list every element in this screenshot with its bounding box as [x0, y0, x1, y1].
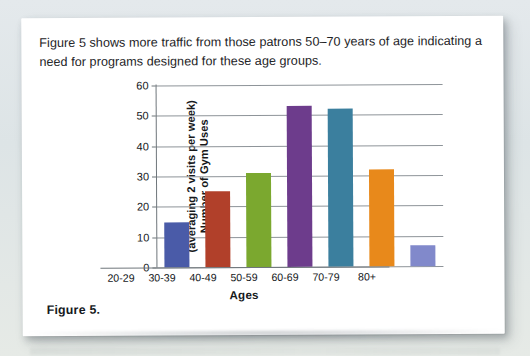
figure-card-inner: Figure 5 shows more traffic from those p… — [21, 16, 505, 336]
bar-30-39 — [205, 191, 231, 267]
bar-slot — [361, 84, 403, 266]
x-axis-tick-label: 60-69 — [264, 271, 305, 283]
y-axis-tick-label: 10 — [137, 231, 149, 243]
figure-caption: Figure 5. — [47, 303, 101, 317]
bar-slot — [402, 84, 444, 266]
bar-chart: Number of Gym Uses (averaging 2 visits p… — [100, 84, 489, 308]
x-axis-tick-labels: 20-2930-3940-4950-5960-6970-7980+ — [100, 270, 387, 283]
bar-slot — [238, 85, 280, 267]
x-axis-line — [100, 266, 389, 268]
bar-70-79 — [369, 169, 395, 266]
x-axis-tick-label: 80+ — [346, 270, 387, 282]
y-axis-tick-label: 30 — [137, 171, 149, 183]
bar-slot — [279, 85, 321, 267]
y-axis-tick-label: 20 — [137, 201, 149, 213]
figure-card: Figure 5 shows more traffic from those p… — [21, 16, 505, 336]
plot-area: 0102030405060 — [156, 84, 444, 267]
bar-80+ — [410, 245, 436, 266]
x-axis-tick-label: 30-39 — [141, 271, 182, 283]
y-axis-tick-label: 60 — [136, 80, 148, 92]
bar-slot — [156, 85, 198, 267]
y-axis-tick-label: 40 — [137, 140, 149, 152]
bar-50-59 — [286, 106, 312, 267]
bar-20-29 — [164, 222, 190, 268]
scanned-page-background: Figure 5 shows more traffic from those p… — [0, 0, 530, 356]
x-axis-tick-label: 70-79 — [305, 271, 346, 283]
y-axis-tick-label: 50 — [136, 110, 148, 122]
bar-40-49 — [246, 173, 272, 267]
bar-series — [156, 84, 444, 267]
intro-paragraph: Figure 5 shows more traffic from those p… — [39, 32, 483, 71]
x-axis-tick-label: 20-29 — [100, 272, 141, 284]
bar-60-69 — [327, 109, 353, 267]
bar-slot — [197, 85, 239, 267]
x-axis-tick-label: 50-59 — [223, 271, 264, 283]
bar-slot — [320, 85, 362, 267]
x-axis-title: Ages — [101, 287, 388, 301]
x-axis-tick-label: 40-49 — [182, 271, 223, 283]
y-axis-title: Number of Gym Uses (averaging 2 visits p… — [100, 86, 135, 268]
